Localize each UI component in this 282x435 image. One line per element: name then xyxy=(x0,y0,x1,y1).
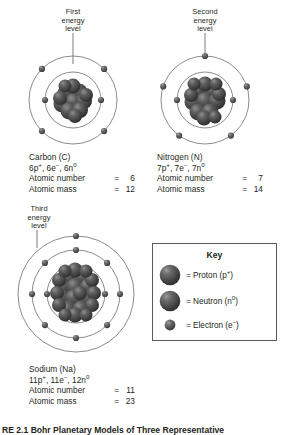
element-stats-sodium: Atomic number = 11 Atomic mass = 23 xyxy=(29,385,135,406)
electron xyxy=(42,322,48,328)
atom-diagram-nitrogen xyxy=(150,50,260,150)
atomic-number-value: 6 xyxy=(121,173,135,184)
figure-caption: RE 2.1 Bohr Planetary Models of Three Re… xyxy=(2,425,282,435)
electron xyxy=(174,97,180,103)
key-row-electron: = Electron (e–) xyxy=(153,318,276,332)
callout-first-energy-level: First energy level xyxy=(44,8,102,34)
atom-diagram-sodium xyxy=(14,232,138,356)
element-composition-nitrogen: 7p+, 7e–, 7n0 xyxy=(157,163,263,174)
electron xyxy=(42,260,48,266)
nucleus-carbon xyxy=(53,79,93,124)
neutron-icon xyxy=(157,290,183,312)
equals-sign: = xyxy=(114,385,121,396)
atomic-number-row-sodium: Atomic number = 11 xyxy=(29,385,135,396)
electron-icon xyxy=(157,318,183,332)
element-info-nitrogen: Nitrogen (N) 7p+, 7e–, 7n0 Atomic number… xyxy=(157,152,263,194)
electron xyxy=(102,291,108,297)
callout-pointer-first xyxy=(72,33,74,64)
atomic-number-row-carbon: Atomic number = 6 xyxy=(29,173,135,184)
equals-sign: = xyxy=(114,184,121,195)
key-label-neutron: = Neutron (n0) xyxy=(186,297,238,306)
electron xyxy=(230,97,236,103)
electron xyxy=(73,233,79,239)
equals-sign: = xyxy=(114,173,121,184)
key-label-electron: = Electron (e–) xyxy=(186,321,239,330)
key-label-proton: = Proton (p+) xyxy=(186,271,233,280)
electron xyxy=(39,66,45,72)
element-stats-carbon: Atomic number = 6 Atomic mass = 12 xyxy=(29,173,135,194)
atomic-number-value: 7 xyxy=(249,173,263,184)
electron xyxy=(244,83,250,89)
key-legend-box: Key = Proton (p+) = Neutron (n0) = Elect… xyxy=(152,243,277,341)
electron xyxy=(117,291,123,297)
element-composition-carbon: 6p+, 6e–, 6n0 xyxy=(29,163,135,174)
proton-icon xyxy=(157,264,183,286)
sodium-atom-svg xyxy=(14,232,138,356)
callout-third-energy-level: Third energy level xyxy=(14,205,64,231)
atomic-mass-label: Atomic mass xyxy=(157,184,205,195)
atomic-number-label: Atomic number xyxy=(157,173,213,184)
electron xyxy=(104,260,110,266)
key-row-proton: = Proton (p+) xyxy=(153,264,276,286)
element-info-sodium: Sodium (Na) 11p+, 11e–, 12n0 Atomic numb… xyxy=(29,364,135,406)
electron xyxy=(44,291,50,297)
element-stats-nitrogen: Atomic number = 7 Atomic mass = 14 xyxy=(157,173,263,194)
atomic-mass-label: Atomic mass xyxy=(29,396,77,407)
key-title: Key xyxy=(153,250,276,260)
nucleus-nitrogen xyxy=(184,77,226,126)
element-name-nitrogen: Nitrogen (N) xyxy=(157,152,263,163)
atomic-mass-value: 12 xyxy=(121,184,135,195)
callout-pointer-second xyxy=(204,33,206,56)
electron xyxy=(101,128,107,134)
atomic-mass-row-nitrogen: Atomic mass = 14 xyxy=(157,184,263,195)
atom-diagram-carbon xyxy=(18,50,128,150)
atomic-number-row-nitrogen: Atomic number = 7 xyxy=(157,173,263,184)
carbon-atom-svg xyxy=(18,50,128,150)
electron xyxy=(29,291,35,297)
element-name-carbon: Carbon (C) xyxy=(29,152,135,163)
equals-sign: = xyxy=(242,173,249,184)
atomic-mass-row-carbon: Atomic mass = 12 xyxy=(29,184,135,195)
electron xyxy=(42,97,48,103)
callout-second-energy-level: Second energy level xyxy=(174,8,236,34)
atomic-number-label: Atomic number xyxy=(29,173,85,184)
key-row-neutron: = Neutron (n0) xyxy=(153,290,276,312)
bohr-model-figure: First energy level Carbon (C) 6p+, 6e–, … xyxy=(0,0,282,435)
electron xyxy=(104,322,110,328)
equals-sign: = xyxy=(114,396,121,407)
atomic-mass-row-sodium: Atomic mass = 23 xyxy=(29,396,135,407)
atomic-mass-value: 14 xyxy=(249,184,263,195)
equals-sign: = xyxy=(242,184,249,195)
electron xyxy=(160,83,166,89)
atomic-mass-label: Atomic mass xyxy=(29,184,77,195)
electron xyxy=(176,133,182,139)
element-composition-sodium: 11p+, 11e–, 12n0 xyxy=(29,375,135,386)
electron xyxy=(101,66,107,72)
atomic-mass-value: 23 xyxy=(121,396,135,407)
electron xyxy=(73,247,79,253)
atomic-number-value: 11 xyxy=(121,385,135,396)
element-info-carbon: Carbon (C) 6p+, 6e–, 6n0 Atomic number =… xyxy=(29,152,135,194)
atomic-number-label: Atomic number xyxy=(29,385,85,396)
callout-pointer-third xyxy=(36,230,50,252)
electron xyxy=(39,128,45,134)
electron xyxy=(228,133,234,139)
nitrogen-atom-svg xyxy=(150,50,260,150)
electron xyxy=(98,97,104,103)
electron xyxy=(73,335,79,341)
